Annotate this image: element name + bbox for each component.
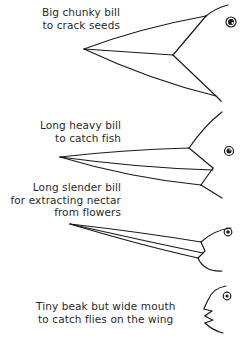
nectar-feeder-bill-icon — [70, 224, 232, 271]
fish-eater-bill-icon — [60, 112, 234, 198]
seed-eater-bill-icon — [84, 5, 236, 101]
bird-bills-illustration — [0, 0, 245, 337]
insect-catcher-bill-icon — [204, 286, 231, 333]
